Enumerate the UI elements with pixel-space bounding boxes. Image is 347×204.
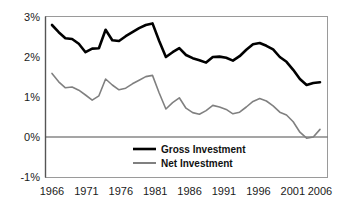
x-tick-label: 1991 (212, 185, 236, 197)
x-tick-label: 1996 (246, 185, 270, 197)
x-tick-label: 2006 (308, 185, 332, 197)
x-tick-label: 1976 (109, 185, 133, 197)
y-tick-label: 3% (24, 11, 40, 23)
legend-label-gross-investment: Gross Investment (161, 144, 246, 155)
x-tick-label: 2001 (281, 185, 305, 197)
y-tick-label: 1% (24, 91, 40, 103)
x-tick-label: 1966 (40, 185, 64, 197)
y-tick-label: 0% (24, 131, 40, 143)
y-tick-label: 2% (24, 51, 40, 63)
y-tick-label: -1% (20, 171, 40, 183)
x-tick-label: 1971 (74, 185, 98, 197)
chart-canvas: 3% 2% 1% 0% -1% 1966 1971 1976 1981 1986… (0, 0, 347, 204)
x-axis-tick-labels: 1966 1971 1976 1981 1986 1991 1996 2001 … (40, 185, 332, 197)
x-tick-label: 1981 (143, 185, 167, 197)
legend-label-net-investment: Net Investment (161, 158, 233, 169)
y-axis-tick-labels: 3% 2% 1% 0% -1% (20, 11, 40, 183)
x-tick-label: 1986 (177, 185, 201, 197)
investment-trend-chart: 3% 2% 1% 0% -1% 1966 1971 1976 1981 1986… (0, 0, 347, 204)
